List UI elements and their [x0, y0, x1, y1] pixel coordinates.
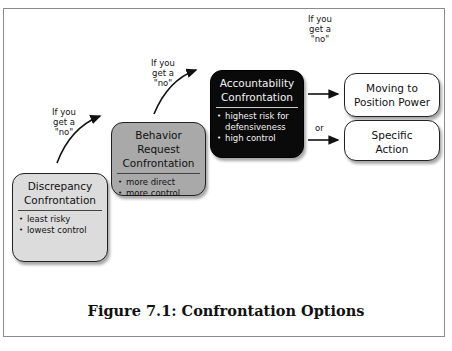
box-title: Discrepancy Confrontation [13, 174, 107, 210]
box-title: Accountability Confrontation [211, 71, 303, 107]
bullet-item: least risky [19, 214, 101, 225]
box-title: Specific Action [345, 121, 439, 159]
bullet-item: lowest control [19, 225, 101, 236]
accountability-confrontation-box: Accountability Confrontation highest ris… [210, 70, 304, 158]
divider [117, 173, 200, 174]
bullet-item: more control [118, 188, 199, 199]
discrepancy-confrontation-box: Discrepancy Confrontation least risky lo… [12, 173, 108, 262]
if-no-label-3: If you get a "no" [300, 14, 340, 44]
box-title: Behavior Request Confrontation [112, 123, 205, 173]
bullet-item: high control [217, 133, 297, 144]
if-no-label-2: If you get a "no" [143, 58, 183, 88]
bullet-item: more direct [118, 177, 199, 188]
bullet-list: least risky lowest control [13, 214, 107, 236]
divider [18, 210, 102, 211]
behavior-request-confrontation-box: Behavior Request Confrontation more dire… [111, 122, 206, 196]
bullet-item: highest risk for defensiveness [217, 111, 297, 133]
or-label: or [315, 123, 324, 133]
specific-action-box: Specific Action [344, 120, 440, 161]
box-title: Moving to Position Power [345, 74, 439, 112]
if-no-label-1: If you get a "no" [44, 107, 84, 137]
bullet-list: highest risk for defensiveness high cont… [211, 111, 303, 144]
figure-caption: Figure 7.1: Confrontation Options [0, 302, 452, 319]
moving-to-position-power-box: Moving to Position Power [344, 73, 440, 117]
divider [216, 107, 298, 108]
bullet-list: more direct more control [112, 177, 205, 199]
